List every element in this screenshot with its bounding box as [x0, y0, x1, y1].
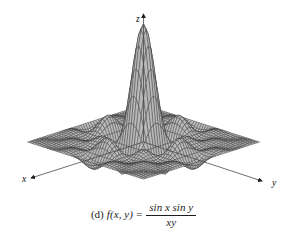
caption-function: f(x, y): [107, 209, 133, 221]
z-axis-label: z: [135, 14, 140, 24]
caption-part-label: (d): [91, 209, 104, 221]
caption-numerator: sin x sin y: [146, 202, 196, 215]
figure-container: x y z (d) f(x, y) = sin x sin y xy: [0, 0, 287, 242]
caption-equals: =: [136, 209, 142, 221]
caption-fraction: sin x sin y xy: [146, 202, 196, 228]
caption-denominator: xy: [163, 216, 179, 229]
surface-plot: x y z: [0, 0, 287, 200]
surface-plot-svg: x y z: [0, 0, 287, 200]
figure-caption: (d) f(x, y) = sin x sin y xy: [0, 198, 287, 242]
y-axis-label: y: [271, 178, 277, 188]
x-axis-label: x: [21, 174, 27, 184]
